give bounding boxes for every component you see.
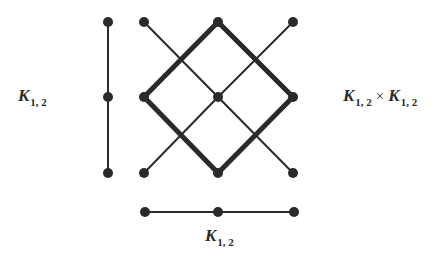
product-vertex	[213, 92, 223, 102]
product-vertex	[213, 168, 223, 178]
product-vertex	[139, 168, 149, 178]
label-bottom-symbol: K	[205, 226, 216, 245]
horizontal-path-vertex	[289, 207, 299, 217]
product-vertex	[213, 17, 223, 27]
label-product: K1, 2×K1, 2	[343, 86, 417, 106]
label-left-k12: K1, 2	[18, 86, 47, 106]
horizontal-path-vertex	[140, 207, 150, 217]
label-product-left-subscript: 1, 2	[355, 96, 372, 108]
label-product-right-subscript: 1, 2	[401, 96, 418, 108]
thin-edges	[108, 22, 294, 212]
product-vertex	[139, 92, 149, 102]
vertical-path-vertex	[103, 92, 113, 102]
product-vertex	[288, 168, 298, 178]
label-bottom-k12: K1, 2	[205, 226, 234, 246]
product-vertex	[288, 17, 298, 27]
vertical-path-vertex	[103, 17, 113, 27]
product-vertex	[288, 92, 298, 102]
product-vertex	[139, 17, 149, 27]
vertices	[103, 17, 299, 217]
label-product-right-symbol: K	[388, 86, 399, 105]
label-bottom-subscript: 1, 2	[217, 236, 234, 248]
label-left-subscript: 1, 2	[30, 96, 47, 108]
diagram-canvas	[0, 0, 440, 263]
label-product-left-symbol: K	[343, 86, 354, 105]
label-left-symbol: K	[18, 86, 29, 105]
vertical-path-vertex	[103, 168, 113, 178]
horizontal-path-vertex	[213, 207, 223, 217]
times-operator: ×	[376, 88, 384, 104]
